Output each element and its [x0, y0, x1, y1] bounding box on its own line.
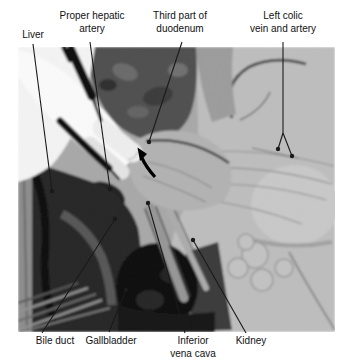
label-gallbladder-text: Gallbladder	[71, 335, 151, 348]
label-third-part-of-duodenum-line1: Third part of	[130, 10, 230, 23]
label-third-part-of-duodenum: Third part of duodenum	[130, 10, 230, 35]
photo-grain	[18, 47, 335, 332]
anatomy-figure: Liver Proper hepatic artery Third part o…	[0, 0, 346, 363]
label-kidney-text: Kidney	[221, 335, 281, 348]
label-left-colic-line2: vein and artery	[233, 23, 333, 36]
label-inferior-vena-cava-line2: vena cava	[153, 348, 233, 361]
label-proper-hepatic-artery-line2: artery	[42, 23, 142, 36]
label-kidney: Kidney	[221, 335, 281, 348]
dissection-photo	[0, 0, 346, 363]
label-proper-hepatic-artery-line1: Proper hepatic	[42, 10, 142, 23]
label-third-part-of-duodenum-line2: duodenum	[130, 23, 230, 36]
label-gallbladder: Gallbladder	[71, 335, 151, 348]
label-proper-hepatic-artery: Proper hepatic artery	[42, 10, 142, 35]
label-left-colic-vein-and-artery: Left colic vein and artery	[233, 10, 333, 35]
label-left-colic-line1: Left colic	[233, 10, 333, 23]
